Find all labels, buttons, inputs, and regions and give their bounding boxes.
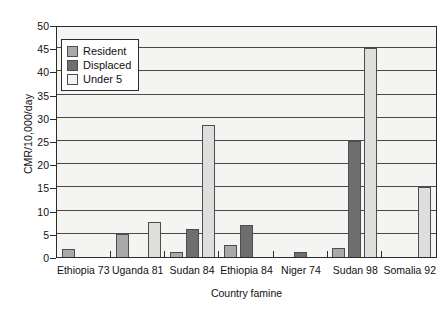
bar-chart: CMR/10,000/day 05101520253035404550 Ethi…: [0, 0, 444, 313]
bar-slot: [332, 27, 345, 257]
y-tick-label: 40: [9, 67, 49, 78]
bar-under5: [418, 187, 431, 257]
bar-group: [219, 27, 273, 257]
bar-under5: [148, 222, 161, 257]
bar-resident: [116, 234, 129, 257]
legend-swatch-icon: [67, 46, 78, 57]
bar-slot: [240, 27, 253, 257]
bar-slot: [310, 27, 323, 257]
bar-slot: [256, 27, 269, 257]
bar-displaced: [348, 141, 361, 257]
bar-group: [328, 27, 382, 257]
bar-slot: [364, 27, 377, 257]
bar-resident: [224, 245, 237, 257]
bar-resident: [332, 248, 345, 257]
legend-label: Displaced: [83, 60, 131, 71]
legend-swatch-icon: [67, 74, 78, 85]
legend-item-displaced: Displaced: [67, 58, 131, 72]
x-tick-label: Somalia 92: [383, 259, 437, 281]
legend-label: Resident: [83, 46, 126, 57]
bar-resident: [62, 249, 75, 257]
bar-slot: [186, 27, 199, 257]
bar-slot: [224, 27, 237, 257]
bar-slot: [202, 27, 215, 257]
bar-slot: [170, 27, 183, 257]
x-tick-label: Sudan 84: [165, 259, 219, 281]
y-tick-label: 50: [9, 21, 49, 32]
y-tick-label: 35: [9, 90, 49, 101]
bar-under5: [364, 48, 377, 257]
y-tick-label: 0: [9, 253, 49, 264]
y-tick-label: 25: [9, 137, 49, 148]
bar-group: [274, 27, 328, 257]
legend-label: Under 5: [83, 74, 122, 85]
x-tick-label: Ethiopia 84: [219, 259, 273, 281]
bar-slot: [418, 27, 431, 257]
legend-item-resident: Resident: [67, 44, 131, 58]
bar-slot: [348, 27, 361, 257]
legend: Resident Displaced Under 5: [61, 39, 139, 91]
x-axis-title: Country famine: [56, 287, 437, 299]
x-tick-label: Uganda 81: [110, 259, 164, 281]
y-tick-label: 5: [9, 230, 49, 241]
bar-slot: [402, 27, 415, 257]
legend-item-under5: Under 5: [67, 72, 131, 86]
bar-group: [165, 27, 219, 257]
bar-under5: [202, 125, 215, 257]
bar-slot: [278, 27, 291, 257]
legend-swatch-icon: [67, 60, 78, 71]
bar-group: [382, 27, 436, 257]
y-tick-label: 15: [9, 183, 49, 194]
bar-resident: [170, 252, 183, 257]
bar-displaced: [240, 225, 253, 257]
x-axis-ticks: Ethiopia 73Uganda 81Sudan 84Ethiopia 84N…: [56, 259, 437, 281]
bar-slot: [294, 27, 307, 257]
y-axis-ticks: 05101520253035404550: [0, 0, 56, 313]
y-tick-label: 20: [9, 160, 49, 171]
y-tick-label: 30: [9, 114, 49, 125]
bar-slot: [386, 27, 399, 257]
x-tick-label: Niger 74: [274, 259, 328, 281]
y-tick-label: 45: [9, 44, 49, 55]
y-tick-label: 10: [9, 206, 49, 217]
bar-slot: [148, 27, 161, 257]
x-tick-label: Ethiopia 73: [56, 259, 110, 281]
bar-displaced: [186, 229, 199, 257]
bar-displaced: [294, 252, 307, 257]
x-tick-label: Sudan 98: [328, 259, 382, 281]
